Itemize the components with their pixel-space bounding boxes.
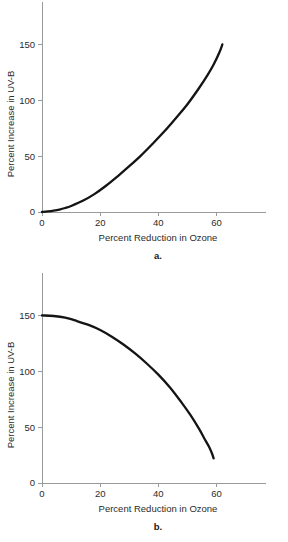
chart-a-curve (42, 44, 222, 212)
x-tick-label: 20 (95, 217, 106, 228)
x-tick-label: 60 (211, 488, 222, 499)
x-tick-label: 0 (39, 488, 44, 499)
data-series-line (42, 315, 214, 458)
chart-a-x-axis-title: Percent Reduction in Ozone (99, 232, 218, 243)
y-tick-label: 150 (19, 310, 35, 321)
data-series-line (42, 44, 222, 212)
chart-a-ticks (38, 44, 217, 216)
y-tick-label: 100 (19, 366, 35, 377)
y-tick-label: 0 (30, 477, 35, 488)
chart-b-ticks (38, 315, 217, 487)
chart-b-y-axis-title: Percent Increase in UV-B (5, 342, 16, 449)
figure-page: 0501001500204060 Percent Increase in UV-… (0, 0, 288, 542)
y-tick-label: 50 (24, 422, 35, 433)
chart-b-canvas: 0501001500204060 Percent Increase in UV-… (0, 271, 288, 542)
chart-a-canvas: 0501001500204060 Percent Increase in UV-… (0, 0, 288, 271)
y-tick-label: 50 (24, 151, 35, 162)
chart-b-panel-letter: b. (154, 521, 162, 532)
chart-panel-a: 0501001500204060 Percent Increase in UV-… (0, 0, 288, 271)
chart-panel-b: 0501001500204060 Percent Increase in UV-… (0, 271, 288, 542)
y-tick-label: 100 (19, 95, 35, 106)
chart-a-panel-letter: a. (154, 250, 162, 261)
chart-b-axes (42, 273, 266, 483)
x-tick-label: 40 (153, 488, 164, 499)
x-tick-label: 0 (39, 217, 44, 228)
chart-a-tick-labels: 0501001500204060 (19, 39, 222, 228)
y-tick-label: 0 (30, 206, 35, 217)
x-tick-label: 60 (211, 217, 222, 228)
chart-b-tick-labels: 0501001500204060 (19, 310, 222, 499)
x-tick-label: 20 (95, 488, 106, 499)
chart-a-y-axis-title: Percent Increase in UV-B (5, 71, 16, 178)
chart-b-x-axis-title: Percent Reduction in Ozone (99, 503, 218, 514)
x-tick-label: 40 (153, 217, 164, 228)
chart-b-curve (42, 315, 214, 458)
chart-a-axes (42, 2, 266, 212)
y-tick-label: 150 (19, 39, 35, 50)
